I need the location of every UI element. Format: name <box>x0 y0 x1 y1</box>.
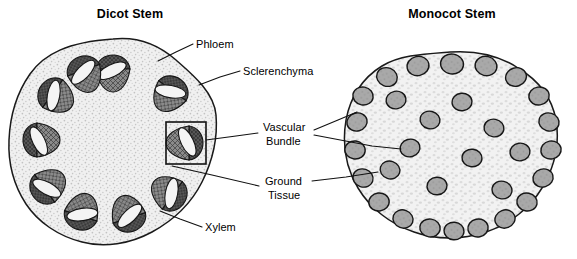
vascular-bundle-label-line2: Bundle <box>266 135 301 147</box>
vascular-bundle[interactable] <box>443 222 464 241</box>
phloem-label: Phloem <box>196 38 234 50</box>
xylem-label: Xylem <box>205 221 236 233</box>
vascular-bundle[interactable] <box>426 177 447 196</box>
ground-tissue-label-line1: Ground <box>265 175 302 187</box>
dicot-stem-title: Dicot Stem <box>97 7 163 21</box>
vascular-bundle-label-line1: Vascular <box>263 121 306 133</box>
ground-tissue-label-line2: Tissue <box>268 189 300 201</box>
sclerenchyma-label: Sclerenchyma <box>243 65 314 77</box>
diagram-canvas: Dicot Stem Monocot Stem Phloem Sclerench… <box>0 0 577 259</box>
monocot-stem-title: Monocot Stem <box>408 7 495 21</box>
stem-cross-section-figure: Dicot Stem Monocot Stem Phloem Sclerench… <box>0 0 577 259</box>
